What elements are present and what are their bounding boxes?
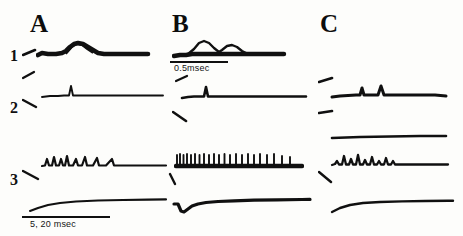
trace-a-row3: [40, 150, 168, 172]
trace-c-row1-empty: [330, 40, 440, 60]
row-tick-b3: [168, 172, 182, 186]
panel-letter-c: C: [320, 11, 339, 36]
trace-c-row4: [330, 198, 455, 218]
trace-b-row1: [172, 36, 287, 62]
row-tick-a1b: [22, 68, 38, 82]
trace-a-row4: [28, 196, 168, 216]
row-label-3: 3: [10, 172, 18, 188]
trace-a-row2: [40, 82, 165, 104]
row-tick-c3: [318, 170, 336, 185]
panel-letter-b: B: [172, 11, 189, 36]
panel-letter-a: A: [30, 11, 49, 36]
trace-b-row3: [174, 150, 304, 172]
trace-b-row2: [180, 84, 308, 106]
scale-bar-label-slow: 5, 20 msec: [30, 219, 76, 229]
trace-b-row4: [172, 196, 312, 218]
trace-a-row1: [36, 38, 151, 62]
row-tick-c2: [318, 108, 336, 120]
row-tick-a2: [22, 97, 40, 111]
row-label-2: 2: [10, 100, 18, 116]
row-tick-b1: [175, 72, 191, 84]
row-tick-a3: [22, 168, 42, 183]
trace-c-row3: [330, 150, 450, 172]
scale-bar-rule-slow: [22, 216, 110, 218]
trace-c-row3-baseline: [330, 132, 448, 144]
row-tick-b2: [172, 110, 190, 124]
figure-root: A B C 1 2 3: [0, 0, 463, 236]
trace-c-row2: [330, 82, 448, 106]
row-label-1: 1: [10, 48, 18, 64]
scale-bar-label-fast: 0.5msec: [174, 63, 209, 73]
